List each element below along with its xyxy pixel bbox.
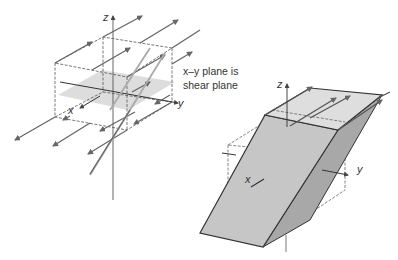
y-axis-label: y xyxy=(177,97,185,109)
z-axis-label-right: z xyxy=(276,78,283,90)
annotation-line-2: shear plane xyxy=(183,79,238,91)
right-panel: z x y xyxy=(200,78,390,252)
left-tick xyxy=(222,153,236,155)
annotation-line-1: x–y plane is xyxy=(183,65,238,77)
y-axis-label-right: y xyxy=(356,163,364,175)
z-axis-label: z xyxy=(102,11,109,23)
x-axis-label: x xyxy=(67,104,74,116)
bottom-velocity-arrows xyxy=(15,95,172,154)
shear-diagram: z x y x–y plane is shear plane xyxy=(0,0,398,260)
x-axis-label-right: x xyxy=(244,173,251,185)
front-bottom-edge xyxy=(90,110,130,174)
shear-plane xyxy=(58,70,175,110)
left-panel: z x y x–y plane is shear plane xyxy=(15,11,238,200)
